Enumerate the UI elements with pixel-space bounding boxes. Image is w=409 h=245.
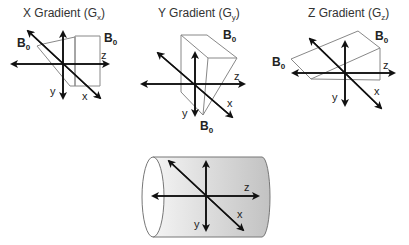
- y-panel-b0-top: B0: [223, 28, 237, 44]
- z-gradient-plane: [291, 31, 380, 79]
- y-gradient-panel: B0 B0 z y x: [142, 28, 244, 135]
- z-gradient-panel: B0 B0 z y x: [272, 29, 394, 108]
- bore-y-label: y: [194, 218, 200, 230]
- gradient-diagram: B0 B0 z y x B0 B0 z y x B0 B0 z: [0, 0, 409, 245]
- y-panel-x-label: x: [227, 97, 233, 109]
- z-panel-b0-right: B0: [375, 29, 389, 45]
- y-panel-z-label: z: [234, 70, 240, 82]
- z-panel-x-label: x: [374, 85, 380, 97]
- y-panel-b0-bottom: B0: [200, 119, 214, 135]
- x-panel-y-label: y: [50, 85, 56, 97]
- magnet-bore-cylinder: z y x: [142, 157, 270, 237]
- bore-x-label: x: [237, 208, 243, 220]
- x-gradient-panel: B0 B0 z y x: [12, 31, 118, 102]
- y-panel-y-label: y: [182, 107, 188, 119]
- bore-z-label: z: [244, 181, 250, 193]
- x-panel-x-label: x: [82, 90, 88, 102]
- z-panel-b0-left: B0: [272, 55, 286, 71]
- x-panel-b0-left: B0: [17, 36, 31, 52]
- z-panel-y-label: y: [332, 91, 338, 103]
- z-panel-z-label: z: [383, 59, 389, 71]
- x-gradient-plane: [37, 36, 100, 86]
- x-panel-b0-right: B0: [104, 31, 118, 47]
- x-panel-z-label: z: [101, 49, 107, 61]
